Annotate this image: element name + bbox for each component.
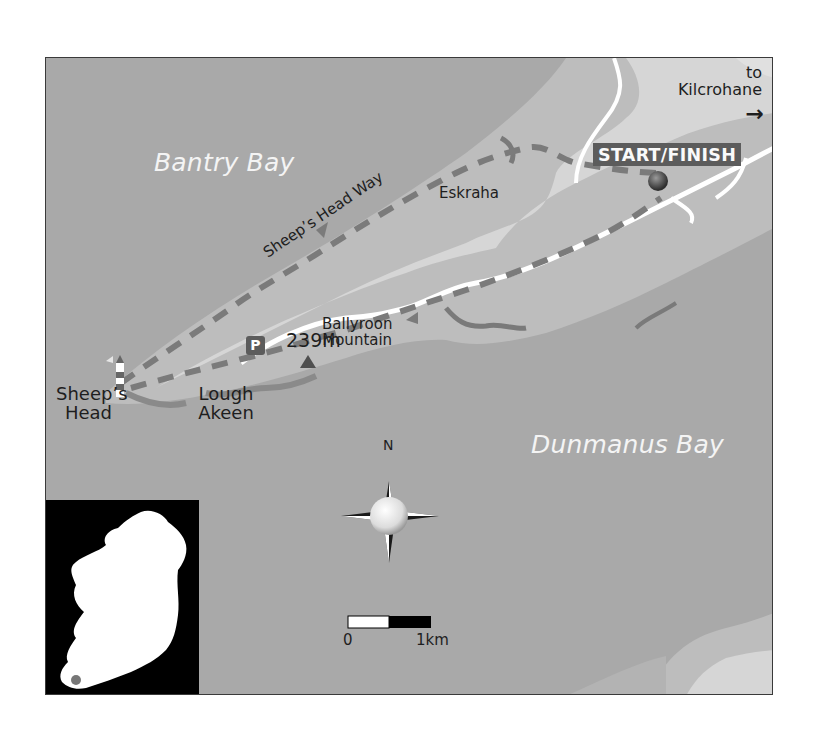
start-finish-marker-icon (648, 171, 668, 191)
compass-north-label: N (383, 438, 393, 453)
sea-label-bantry-bay: Bantry Bay (154, 150, 294, 176)
arrow-right-icon: → (746, 102, 764, 125)
ireland-locator-inset (46, 500, 199, 694)
direction-label-kilcrohane: to Kilcrohane (678, 65, 762, 99)
parking-icon: P (246, 336, 265, 355)
place-label-lough-akeen: Lough Akeen (196, 385, 256, 423)
walking-route-map: P Bantry Bay Dunmanus Bay Sheep’s Head L… (45, 57, 773, 695)
scale-end-label: 1km (416, 633, 449, 649)
place-label-sheeps-head: Sheep’s Head (56, 385, 121, 423)
scale-bar (348, 616, 431, 628)
place-label-eskraha: Eskraha (439, 186, 499, 202)
start-finish-badge: START/FINISH (593, 143, 741, 166)
sea-label-dunmanus-bay: Dunmanus Bay (531, 432, 724, 458)
elevation-label: 239m (286, 331, 341, 351)
place-label-line: Akeen (196, 404, 256, 423)
place-label-line: Head (56, 404, 121, 423)
scale-start-label: 0 (343, 633, 353, 649)
location-marker-icon (71, 675, 81, 685)
direction-label-line: Kilcrohane (678, 82, 762, 99)
ireland-outline-icon (46, 500, 199, 694)
